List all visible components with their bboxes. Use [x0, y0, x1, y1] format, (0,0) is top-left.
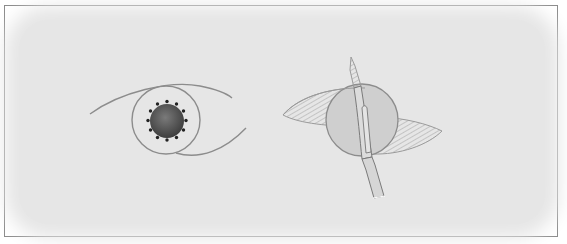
eye-illustration: [0, 0, 567, 244]
blade-tip-upper: [350, 57, 361, 88]
scalpel-handle: [362, 157, 384, 198]
lower-eyelid-curve: [176, 128, 246, 155]
right-eye: [283, 57, 442, 198]
left-eye: [90, 84, 246, 155]
pupil: [150, 104, 184, 138]
